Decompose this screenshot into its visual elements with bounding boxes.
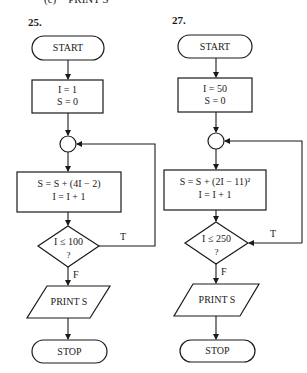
output-text-25: PRINT S (28, 296, 110, 308)
stop-text-27: STOP (180, 345, 255, 357)
init-line-1-25: I = 1 (32, 84, 103, 96)
connector-circle-25 (60, 136, 76, 152)
output-text-27: PRINT S (176, 294, 258, 306)
decision-line-2-27: ? (185, 246, 248, 258)
process-line-1-27: S = S + (2I − 11)² (164, 176, 266, 188)
true-branch-label-25: T (120, 231, 126, 242)
process-line-1-25: S = S + (4I − 2) (17, 178, 121, 190)
init-line-2-27: S = 0 (178, 95, 252, 107)
decision-line-2-25: ? (38, 249, 99, 261)
true-branch-label-27: T (270, 228, 276, 239)
false-branch-label-25: F (73, 269, 79, 280)
problem-label-27: 27. (172, 14, 186, 26)
flowchart-page: (c)PRINT S (0, 0, 307, 373)
init-line-2-25: S = 0 (32, 96, 103, 108)
stop-text-25: STOP (32, 346, 107, 358)
connector-circle-27 (208, 133, 224, 149)
decision-line-1-27: I ≤ 250 (185, 233, 248, 245)
init-line-1-27: I = 50 (178, 83, 252, 95)
process-line-2-27: I = I + 1 (164, 189, 266, 201)
false-branch-label-27: F (221, 266, 227, 277)
start-text-25: START (32, 42, 104, 54)
process-line-2-25: I = I + 1 (17, 191, 121, 203)
decision-line-1-25: I ≤ 100 (38, 236, 99, 248)
start-text-27: START (178, 41, 252, 53)
problem-label-25: 25. (28, 16, 42, 28)
